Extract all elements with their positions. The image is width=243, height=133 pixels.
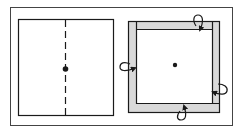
fold-diagram bbox=[0, 0, 243, 133]
right-panel bbox=[120, 15, 227, 120]
center-dot bbox=[63, 66, 69, 72]
left-panel bbox=[19, 20, 114, 116]
center-dot bbox=[173, 63, 177, 67]
